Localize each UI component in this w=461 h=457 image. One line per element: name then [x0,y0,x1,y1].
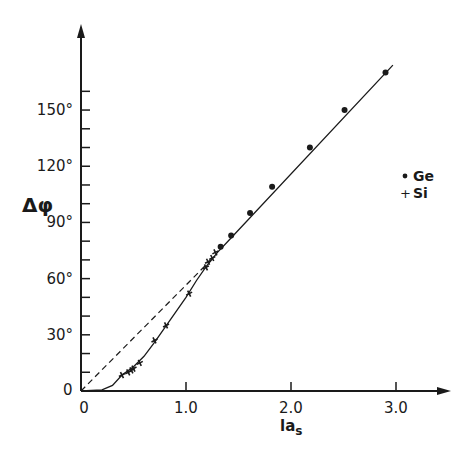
x-tick-label: 0 [79,399,89,417]
y-axis-label: Δφ [22,193,53,217]
ge-point [342,107,348,113]
ge-point [269,184,275,190]
ge-point [307,145,313,151]
x-axis-arrow-icon [437,387,451,395]
chart: 030°60°90°120°150°01.02.03.0 Δφ las Ge +… [0,0,461,457]
ge-point [228,233,234,239]
data-points [119,70,389,378]
x-tick-label: 3.0 [384,399,408,417]
legend-ge-label: Ge [413,168,434,184]
y-tick-label: 0 [63,381,73,399]
y-tick-label: 120° [37,157,73,175]
legend-si-label: Si [413,185,428,201]
ge-point [218,244,224,250]
ge-point [383,70,389,76]
solid-curve [81,65,393,391]
curves [81,65,393,391]
tick-labels: 030°60°90°120°150°01.02.03.0 [37,101,408,417]
y-axis-arrow-icon [77,24,85,38]
legend-ge-marker [403,174,408,179]
legend-si-marker: + [400,186,411,201]
x-axis-label: las [280,417,302,438]
ge-point [247,210,253,216]
x-tick-label: 2.0 [279,399,303,417]
dashed-line [81,262,209,391]
axes [77,24,451,395]
y-tick-label: 150° [37,101,73,119]
x-tick-label: 1.0 [174,399,198,417]
legend: Ge + Si [400,168,434,201]
y-tick-label: 60° [46,270,73,288]
y-tick-label: 30° [46,326,73,344]
